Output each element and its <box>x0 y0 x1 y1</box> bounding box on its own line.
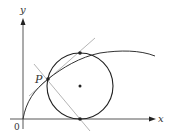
x-axis-label: x <box>158 113 164 124</box>
diagram-canvas: y x 0 P <box>0 0 171 139</box>
x-axis-arrow-icon <box>149 117 156 122</box>
y-axis-label: y <box>19 4 26 15</box>
circle-bottom-point <box>78 117 82 121</box>
curve <box>23 51 155 119</box>
y-axis-arrow-icon <box>21 18 26 25</box>
point-p <box>46 77 50 81</box>
circle-center-point <box>79 85 82 88</box>
point-p-label: P <box>34 73 43 86</box>
origin-label: 0 <box>14 122 20 132</box>
circle-top-point <box>78 51 82 55</box>
